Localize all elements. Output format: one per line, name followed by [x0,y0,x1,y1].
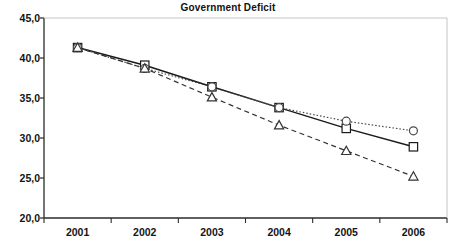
marker-circle [208,83,216,91]
x-tick-label: 2001 [48,226,108,238]
x-tick-label: 2005 [316,226,376,238]
chart-plot-area [0,0,456,248]
x-tick-label: 2003 [182,226,242,238]
x-tick-label: 2006 [383,226,443,238]
plot-background [44,18,447,218]
marker-circle [342,117,350,125]
x-tick-label: 2004 [249,226,309,238]
x-tick-label: 2002 [115,226,175,238]
marker-square [409,143,417,151]
marker-circle [275,104,283,112]
chart-container: Government Deficit 45,040,035,030,025,02… [0,0,456,248]
marker-circle [409,127,417,135]
